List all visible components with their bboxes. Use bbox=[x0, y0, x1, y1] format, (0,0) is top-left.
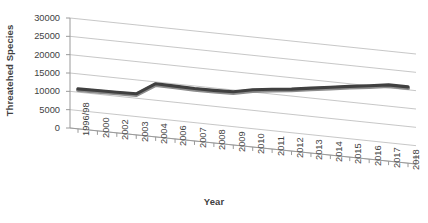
x-tick-label: 2009 bbox=[237, 131, 247, 152]
x-axis-tick-labels: 1996/98200020022003200420062007200820092… bbox=[0, 0, 428, 223]
x-tick-label: 2016 bbox=[373, 145, 383, 166]
x-tick-label: 2015 bbox=[353, 143, 363, 164]
x-tick-label: 2017 bbox=[392, 147, 402, 168]
x-tick-label: 2018 bbox=[411, 149, 421, 170]
x-tick-label: 2007 bbox=[198, 127, 208, 148]
x-tick-label: 2003 bbox=[140, 121, 150, 142]
x-tick-label: 2000 bbox=[101, 117, 111, 138]
x-tick-label: 2002 bbox=[120, 119, 130, 140]
x-tick-label: 2006 bbox=[178, 125, 188, 146]
x-tick-label: 2013 bbox=[314, 139, 324, 160]
threatened-species-chart: Threatehed Species 050001000015000200002… bbox=[0, 0, 428, 223]
x-tick-label: 2012 bbox=[295, 137, 305, 158]
x-tick-label: 2010 bbox=[256, 133, 266, 154]
x-tick-label: 2008 bbox=[217, 129, 227, 150]
x-tick-label: 2014 bbox=[334, 141, 344, 162]
x-tick-label: 2011 bbox=[276, 136, 286, 156]
x-tick-label: 1996/98 bbox=[81, 102, 91, 136]
x-tick-label: 2004 bbox=[159, 123, 169, 144]
x-axis-title-label: Year bbox=[204, 196, 224, 207]
x-axis-title: Year bbox=[0, 196, 428, 207]
